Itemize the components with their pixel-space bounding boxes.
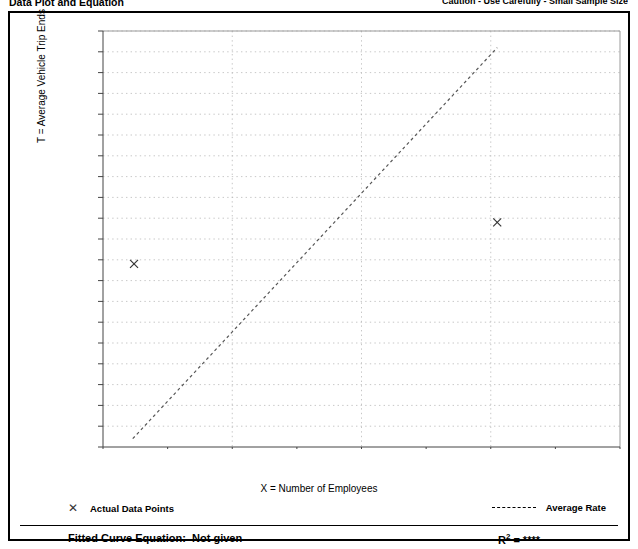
r-squared-number: = **** [510, 534, 540, 546]
x-axis-label: X = Number of Employees [10, 483, 628, 494]
dashed-line-icon [492, 507, 536, 508]
legend-item-average-rate: Average Rate [492, 502, 606, 513]
legend-divider [20, 525, 618, 526]
y-axis-label: T = Average Vehicle Trip Ends [36, 123, 47, 143]
equation-row: Fitted Curve Equation: Not given R2 = **… [10, 532, 628, 549]
r-squared-value: R2 = **** [498, 532, 540, 546]
scatter-chart: 1020304050607080901001101201301401501601… [95, 29, 622, 449]
chart-frame: T = Average Vehicle Trip Ends 1020304050… [8, 11, 630, 541]
plot-area: 1020304050607080901001101201301401501601… [95, 29, 622, 449]
r-squared-prefix: R [498, 534, 506, 546]
legend-label-average-rate: Average Rate [546, 502, 606, 513]
trip-generation-plot-page: Data Plot and Equation Caution - Use Car… [0, 0, 638, 549]
page-header-caution-note: Caution - Use Carefully - Small Sample S… [442, 0, 628, 10]
legend-label-data-points: Actual Data Points [90, 503, 174, 514]
x-marker-icon: ✕ [68, 502, 78, 514]
legend-item-data-points: ✕ Actual Data Points [68, 502, 174, 514]
fitted-curve-equation: Fitted Curve Equation: Not given [68, 532, 242, 544]
chart-legend: ✕ Actual Data Points Average Rate [10, 502, 628, 524]
page-header-title: Data Plot and Equation [9, 0, 124, 10]
